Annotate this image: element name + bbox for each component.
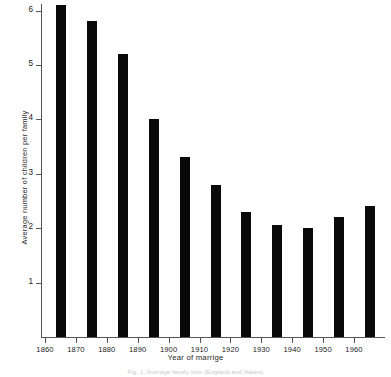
x-tick-1910: [200, 338, 201, 343]
x-tick-1920: [230, 338, 231, 343]
bar-chart-figure: Average number of children per family 12…: [0, 0, 391, 377]
x-tick-1900: [169, 338, 170, 343]
bar-1900: [180, 157, 190, 337]
y-tick-2: 2: [36, 228, 42, 229]
y-tick-1: 1: [36, 283, 42, 284]
x-tick-1880: [107, 338, 108, 343]
y-axis-title: Average number of children per family: [20, 48, 29, 308]
x-tick-1950: [323, 338, 324, 343]
y-axis-line: [41, 4, 42, 338]
y-tick-label: 3: [28, 168, 33, 177]
y-tick-5: 5: [36, 65, 42, 66]
bar-1870: [87, 21, 97, 337]
x-tick-1930: [261, 338, 262, 343]
y-tick-label: 6: [28, 5, 33, 14]
y-tick-4: 4: [36, 119, 42, 120]
plot-area: 123456 186018701880189019001910192019301…: [41, 4, 385, 338]
bar-1910: [211, 185, 221, 337]
y-tick-3: 3: [36, 174, 42, 175]
x-axis-line: [41, 337, 385, 338]
bar-1960: [365, 206, 375, 337]
bar-1950: [334, 217, 344, 337]
x-axis-title: Year of marrige: [0, 353, 391, 362]
y-tick-6: 6: [36, 11, 42, 12]
bar-1920: [241, 212, 251, 337]
x-tick-1940: [292, 338, 293, 343]
bar-1930: [272, 225, 282, 337]
x-tick-1860: [45, 338, 46, 343]
bar-1880: [118, 54, 128, 337]
y-tick-label: 5: [28, 59, 33, 68]
x-tick-1870: [76, 338, 77, 343]
bar-1940: [303, 228, 313, 337]
bar-1890: [149, 119, 159, 337]
y-tick-label: 1: [28, 277, 33, 286]
x-tick-1890: [138, 338, 139, 343]
y-tick-label: 2: [28, 222, 33, 231]
figure-caption: Fig. 1. Average family size (England and…: [0, 368, 391, 375]
x-tick-1960: [354, 338, 355, 343]
bar-1860: [56, 5, 66, 337]
y-tick-label: 4: [28, 113, 33, 122]
